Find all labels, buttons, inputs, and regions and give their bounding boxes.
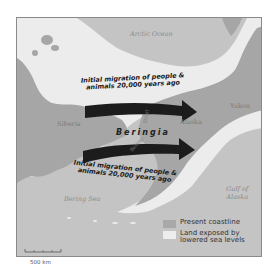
- label-gulf-line2: Alaska: [226, 194, 248, 202]
- scale-bar: 500 km: [24, 238, 62, 265]
- legend-item-exposed-land: Land exposed by lowered sea levels: [163, 230, 245, 245]
- label-bering-sea: Bering Sea: [64, 196, 100, 203]
- legend-swatch-present: [163, 220, 176, 228]
- label-gulf-of-alaska: Gulf of Alaska: [226, 186, 248, 202]
- label-beringia: Beringia: [116, 129, 170, 137]
- island: [51, 45, 59, 51]
- label-arctic-ocean: Arctic Ocean: [130, 31, 173, 38]
- island: [32, 50, 38, 56]
- legend-label-exposed: Land exposed by lowered sea levels: [180, 230, 245, 245]
- scale-label: 500 km: [24, 259, 62, 265]
- scale-bar-graphic: [24, 248, 62, 253]
- legend-label-exposed-line2: lowered sea levels: [180, 237, 245, 244]
- label-yukon: Yukon: [230, 103, 250, 110]
- legend-swatch-exposed: [163, 231, 176, 239]
- legend-label-present: Present coastline: [180, 219, 240, 226]
- label-siberia: Siberia: [57, 121, 81, 128]
- island: [41, 35, 53, 45]
- legend-item-present-coastline: Present coastline: [163, 219, 245, 228]
- label-alaska: Alaska: [180, 119, 202, 126]
- map-legend: Present coastline Land exposed by lowere…: [163, 219, 245, 247]
